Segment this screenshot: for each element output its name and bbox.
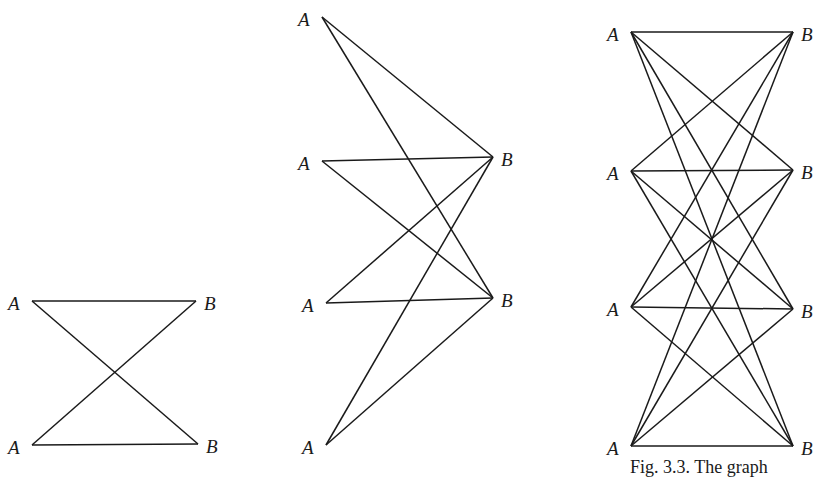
node-label-a: A — [607, 300, 619, 319]
edge-a3-b1 — [326, 298, 493, 445]
node-label-b: B — [501, 150, 513, 169]
edge-a2-b0 — [326, 157, 493, 303]
node-label-a: A — [607, 439, 619, 458]
node-label-a: A — [298, 10, 310, 29]
node-label-b: B — [206, 437, 218, 456]
node-label-b: B — [801, 439, 813, 458]
node-label-a: A — [607, 164, 619, 183]
node-label-a: A — [298, 154, 310, 173]
node-label-a: A — [8, 294, 20, 313]
graph-k4-2 — [322, 17, 493, 445]
node-label-b: B — [801, 163, 813, 182]
node-label-a: A — [607, 25, 619, 44]
edge-a1-b1 — [322, 161, 493, 298]
edge-a0-b0 — [322, 17, 493, 157]
edge-a1-b1 — [32, 444, 198, 445]
node-label-b: B — [801, 302, 813, 321]
figure-caption: Fig. 3.3. The graph — [630, 458, 768, 476]
node-label-a: A — [8, 438, 20, 457]
graph-k4-4 — [631, 32, 793, 446]
graph-k2-2 — [32, 301, 198, 445]
node-label-b: B — [801, 25, 813, 44]
node-label-b: B — [204, 294, 216, 313]
node-label-b: B — [501, 291, 513, 310]
node-label-a: A — [302, 296, 314, 315]
edge-a3-b0 — [326, 157, 493, 445]
node-label-a: A — [302, 438, 314, 457]
